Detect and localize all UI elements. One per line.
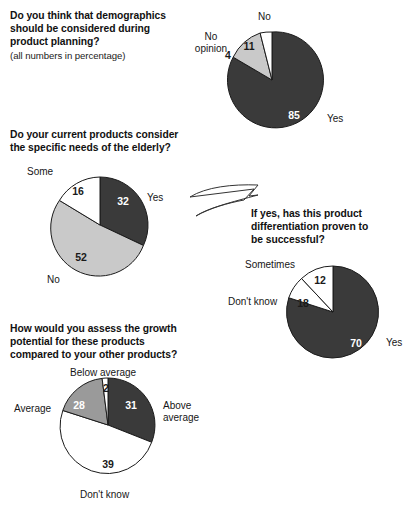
question-1-title-line-3: product planning? (10, 35, 200, 48)
question-4-title-line-1: How would you assess the growth (10, 322, 220, 335)
pie-2-label-no: No (47, 274, 60, 286)
pie-1-label-yes: Yes (327, 113, 343, 125)
pie-4-label-above-average-line-2: average (163, 412, 221, 424)
pie-4-label-below-average: Below average (70, 367, 136, 379)
pie-1-label-no: No (258, 11, 271, 23)
pie-chart-1: 85 11 4 (196, 6, 413, 134)
pie-1-value-yes: 85 (288, 109, 300, 121)
question-4-title-line-2: potential for these products (10, 335, 220, 348)
pie-2-value-yes: 32 (117, 195, 129, 207)
pie-2-label-yes: Yes (147, 192, 163, 204)
pie-chart-2: 32 52 16 (20, 160, 210, 290)
question-4-title-line-3: compared to your other products? (10, 348, 220, 361)
pie-1-label-no-opinion: No opinion (189, 31, 233, 56)
question-2-title-line-2: the specific needs of the elderly? (10, 141, 210, 154)
pie-3-value-dont-know: 18 (297, 297, 309, 309)
pie-4-value-average: 28 (73, 399, 85, 411)
pie-3-label-sometimes: Sometimes (245, 259, 295, 271)
pie-4-label-above-average: Above average (163, 400, 221, 425)
pie-2-value-some: 16 (72, 185, 84, 197)
question-1-title-line-1: Do you think that demographics (10, 9, 200, 22)
question-3-title: If yes, has this product differentiation… (251, 207, 409, 247)
pie-4-label-dont-know: Don't know (80, 489, 129, 501)
pie-4-value-above-average: 31 (125, 399, 137, 411)
pie-chart-1-svg: 85 11 4 (196, 6, 413, 134)
pie-1-value-no: 11 (243, 40, 254, 52)
pie-1-label-no-opinion-line-1: No (189, 31, 233, 43)
question-1-title: Do you think that demographics should be… (10, 9, 200, 62)
question-3-title-line-1: If yes, has this product (251, 207, 409, 220)
units-note: (all numbers in percentage) (10, 49, 200, 62)
pie-4-value-dont-know: 39 (102, 458, 114, 470)
pie-3-value-yes: 70 (350, 337, 362, 349)
question-1-title-line-2: should be considered during (10, 22, 200, 35)
pie-4-value-below-average: 2 (103, 382, 109, 394)
question-3-title-line-2: differentiation proven to (251, 220, 409, 233)
pie-3-value-sometimes: 12 (314, 274, 326, 286)
pie-2-value-no: 52 (75, 251, 87, 263)
pie-3-label-dont-know: Don't know (228, 296, 277, 308)
question-4-title: How would you assess the growth potentia… (10, 322, 220, 362)
pie-4-label-average: Average (14, 403, 51, 415)
question-2-title: Do your current products consider the sp… (10, 128, 210, 154)
question-2-title-line-1: Do your current products consider (10, 128, 210, 141)
pie-chart-3: 70 18 12 (255, 256, 413, 371)
pie-chart-2-svg: 32 52 16 (20, 160, 210, 290)
pie-4-label-above-average-line-1: Above (163, 400, 221, 412)
pie-1-label-no-opinion-line-2: opinion (189, 43, 233, 55)
pie-2-label-some: Some (27, 166, 53, 178)
pie-chart-3-svg: 70 18 12 (255, 256, 413, 371)
question-3-title-line-3: be successful? (251, 233, 409, 246)
pie-chart-4: 31 39 28 2 (30, 373, 230, 501)
pie-3-label-yes: Yes (386, 337, 402, 349)
pie-chart-4-svg: 31 39 28 2 (30, 373, 230, 501)
curved-arrow-path (190, 185, 258, 216)
